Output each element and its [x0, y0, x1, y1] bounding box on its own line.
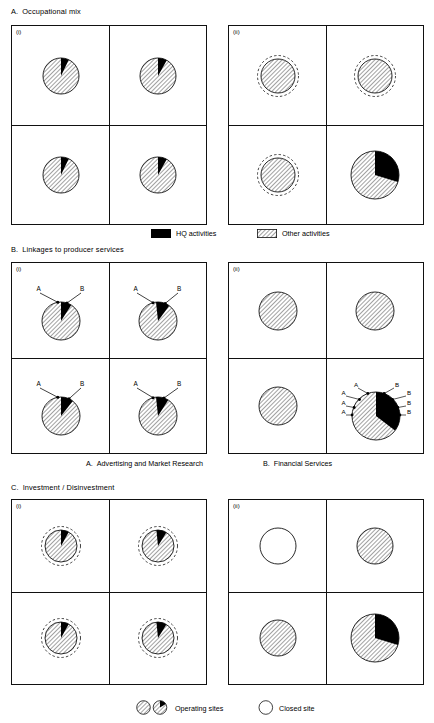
- legend-label: HQ activities: [176, 230, 216, 237]
- leader-label-a: A: [354, 381, 359, 388]
- pie-cell: [326, 592, 423, 684]
- pie-chart: [353, 524, 397, 568]
- leader-label-b: B: [395, 381, 399, 388]
- pie-chart-with-leaders: A B: [28, 283, 94, 345]
- section-a-title-text: Occupational mix: [22, 7, 81, 16]
- pie-cell: [229, 358, 326, 453]
- black-square-swatch: [151, 229, 171, 238]
- leader-label-a: A: [342, 389, 347, 396]
- pie-chart: [348, 148, 402, 202]
- pie-chart: [256, 289, 300, 333]
- pie-cell: A B: [109, 358, 206, 453]
- section-c-title-text: Investment / Disinvestment: [23, 483, 115, 492]
- leader-label-a: A: [36, 285, 41, 292]
- pie-chart: [256, 384, 300, 428]
- pie-cell: A A A A B B: [326, 358, 423, 453]
- leader-label-a: A: [342, 408, 347, 415]
- section-a-title: A.Occupational mix: [11, 7, 81, 16]
- caption-a-lead: A.: [86, 459, 93, 468]
- pie-chart-with-leaders: A B: [125, 283, 191, 345]
- section-c-title: C.Investment / Disinvestment: [11, 483, 114, 492]
- leader-label-b: B: [80, 285, 84, 292]
- caption-b-lead: B.: [263, 459, 270, 468]
- legend-other-activities: Other activities: [257, 229, 330, 238]
- pie-cell: A B: [109, 263, 206, 358]
- panel-c-ii: (ii): [228, 499, 424, 685]
- legend-label: Operating sites: [175, 705, 223, 712]
- pie-cell: [229, 500, 326, 592]
- hatched-square-swatch: [257, 229, 277, 238]
- pie-cell: [109, 26, 206, 125]
- pie-cell: [229, 26, 326, 125]
- pie-chart: [135, 523, 181, 569]
- caption-b-text: Financial Services: [274, 459, 332, 468]
- leader-label-a: A: [133, 380, 138, 387]
- pie-chart: [39, 54, 83, 98]
- pie-chart: [38, 523, 84, 569]
- pie-chart-with-leaders: A B: [125, 378, 191, 440]
- pie-chart: [254, 151, 302, 199]
- pie-cell: [326, 500, 423, 592]
- pie-cell: A B: [12, 263, 109, 358]
- panel-b-i: (i) A B: [11, 262, 207, 454]
- pie-chart: [351, 52, 399, 100]
- open-circle-swatch: [258, 700, 274, 717]
- leader-label-a: A: [342, 399, 347, 406]
- pie-cell: [326, 263, 423, 358]
- pie-cell: [229, 263, 326, 358]
- section-b-title-text: Linkages to producer services: [22, 245, 124, 254]
- pie-chart: [39, 153, 83, 197]
- caption-advertising: A.Advertising and Market Research: [86, 459, 203, 468]
- pie-cell: [12, 125, 109, 224]
- section-b-title: B.Linkages to producer services: [11, 245, 124, 254]
- hatched-circle-and-pie-swatch: [136, 700, 170, 717]
- panel-a-i: (i): [11, 25, 207, 225]
- pie-cell: A B: [12, 358, 109, 453]
- figure-page: A.Occupational mix (i): [0, 0, 434, 723]
- leader-label-b: B: [407, 399, 411, 406]
- legend-label: Other activities: [282, 230, 330, 237]
- leader-label-b: B: [177, 285, 181, 292]
- caption-financial: B.Financial Services: [263, 459, 332, 468]
- pie-chart-with-leaders: A B: [28, 378, 94, 440]
- pie-cell: [109, 592, 206, 684]
- leader-label-b: B: [407, 389, 411, 396]
- pie-chart: [136, 54, 180, 98]
- legend-operating-sites: Operating sites: [136, 700, 223, 717]
- pie-chart: [256, 616, 300, 660]
- pie-chart: [348, 611, 402, 665]
- leader-label-a: A: [133, 285, 138, 292]
- pie-chart: [353, 289, 397, 333]
- leader-label-b: B: [177, 380, 181, 387]
- section-c-lead: C.: [11, 483, 19, 492]
- pie-cell: [229, 592, 326, 684]
- panel-a-ii: (ii): [228, 25, 424, 225]
- section-b-lead: B.: [11, 245, 18, 254]
- legend-hq-activities: HQ activities: [151, 229, 216, 238]
- panel-c-i: (i): [11, 499, 207, 685]
- leader-label-b: B: [407, 408, 411, 415]
- pie-cell: [12, 500, 109, 592]
- pie-cell: [12, 592, 109, 684]
- section-a-lead: A.: [11, 7, 18, 16]
- pie-cell: [326, 26, 423, 125]
- pie-chart: [254, 52, 302, 100]
- pie-chart: [136, 153, 180, 197]
- pie-cell: [229, 125, 326, 224]
- panel-b-ii: (ii): [228, 262, 424, 454]
- leader-label-a: A: [36, 380, 41, 387]
- caption-a-text: Advertising and Market Research: [97, 459, 203, 468]
- pie-cell: [109, 500, 206, 592]
- legend-closed-site: Closed site: [258, 700, 315, 717]
- closed-site-circle: [256, 524, 300, 568]
- pie-cell: [109, 125, 206, 224]
- leader-label-b: B: [80, 380, 84, 387]
- legend-label: Closed site: [279, 705, 315, 712]
- pie-cell: [326, 125, 423, 224]
- pie-chart: [135, 615, 181, 661]
- pie-chart-with-leaders: A A A A B B: [330, 376, 422, 446]
- pie-chart: [38, 615, 84, 661]
- pie-cell: [12, 26, 109, 125]
